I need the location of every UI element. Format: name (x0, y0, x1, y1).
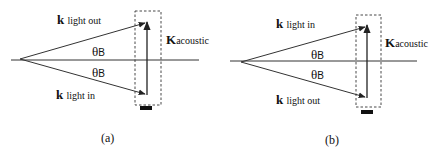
panel-a-theta-lower: θB (92, 64, 105, 80)
vector-symbol: k (276, 92, 283, 107)
panel-a-caption: (a) (101, 132, 114, 144)
vector-symbol: K (166, 32, 176, 47)
panel-b-lower-vector-label: k light out (276, 93, 320, 106)
theta-subscript: B (317, 50, 324, 61)
panel-a-graphics (11, 11, 199, 110)
vector-subscript: light out (67, 15, 101, 26)
theta-subscript: B (98, 68, 105, 79)
theta-subscript: B (98, 47, 105, 58)
panel-b-upper-vector-label: k light in (276, 17, 315, 30)
vector-symbol: k (57, 12, 64, 27)
bragg-diffraction-diagram: k light out k light in Kacoustic θB θB (… (0, 0, 434, 153)
k-light-out-arrow (241, 62, 365, 97)
vector-symbol: k (276, 16, 283, 31)
panel-b-acoustic-label: Kacoustic (385, 36, 428, 49)
vector-subscript: light out (286, 95, 320, 106)
panel-a-lower-vector-label: k light in (56, 88, 95, 101)
panel-a-acoustic-label: Kacoustic (166, 33, 209, 46)
vector-subscript: acoustic (176, 35, 209, 46)
panel-b-graphics (230, 15, 417, 114)
transducer-bar (361, 110, 373, 114)
vector-symbol: K (385, 35, 395, 50)
vector-subscript: light in (66, 90, 95, 101)
panel-a-theta-upper: θB (92, 43, 105, 59)
transducer-bar (140, 106, 152, 110)
vector-symbol: k (56, 87, 63, 102)
vector-subscript: acoustic (395, 38, 428, 49)
panel-b-theta-lower: θB (311, 66, 324, 82)
panel-b-theta-upper: θB (311, 46, 324, 62)
vector-subscript: light in (286, 19, 315, 30)
theta-subscript: B (317, 70, 324, 81)
k-light-in-arrow (241, 27, 365, 62)
panel-a-upper-vector-label: k light out (57, 13, 101, 26)
k-light-out-arrow (20, 23, 145, 59)
panel-b-caption: (b) (325, 134, 339, 146)
